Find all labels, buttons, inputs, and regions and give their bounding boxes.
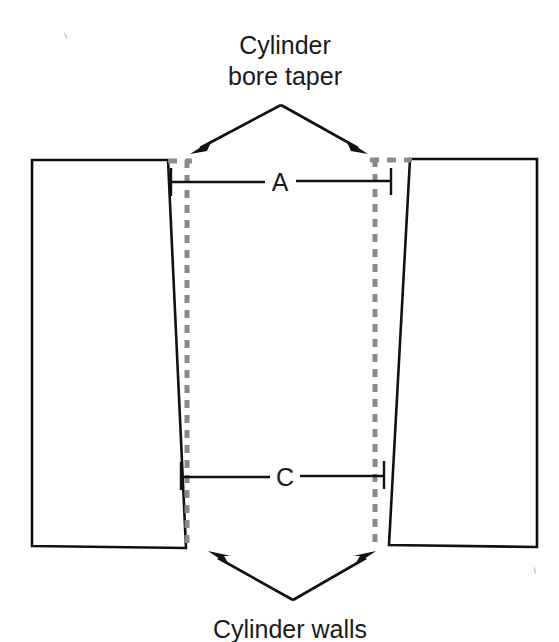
bore-taper-leader-right	[281, 105, 358, 148]
cylinder-walls-label: Cylinder walls	[213, 615, 367, 642]
dimension-a-label: A	[272, 168, 289, 196]
left-cylinder-wall	[32, 160, 186, 548]
dimension-c-group: C	[180, 461, 385, 491]
bore-taper-leader-left	[200, 105, 281, 148]
bore-taper-arrowhead-right	[345, 140, 368, 154]
dimension-a-group: A	[170, 168, 392, 196]
cylinder-bore-taper-diagram: A C Cylinder bore taper	[0, 0, 559, 642]
bore-taper-arrowhead-left	[190, 140, 213, 154]
cylinder-bore-taper-label-line2: bore taper	[228, 62, 342, 90]
cylinder-walls-arrowhead-left	[208, 551, 231, 566]
cylinder-walls-arrowhead-right	[353, 551, 376, 566]
right-cylinder-wall	[389, 159, 537, 547]
cylinder-walls-leader-left	[218, 558, 293, 600]
cylinder-bore-taper-callout: Cylinder bore taper	[190, 31, 368, 154]
dimension-c-label: C	[276, 463, 294, 491]
cylinder-walls-callout: Cylinder walls	[208, 551, 376, 642]
cylinder-bore-taper-label-line1: Cylinder	[239, 31, 331, 59]
